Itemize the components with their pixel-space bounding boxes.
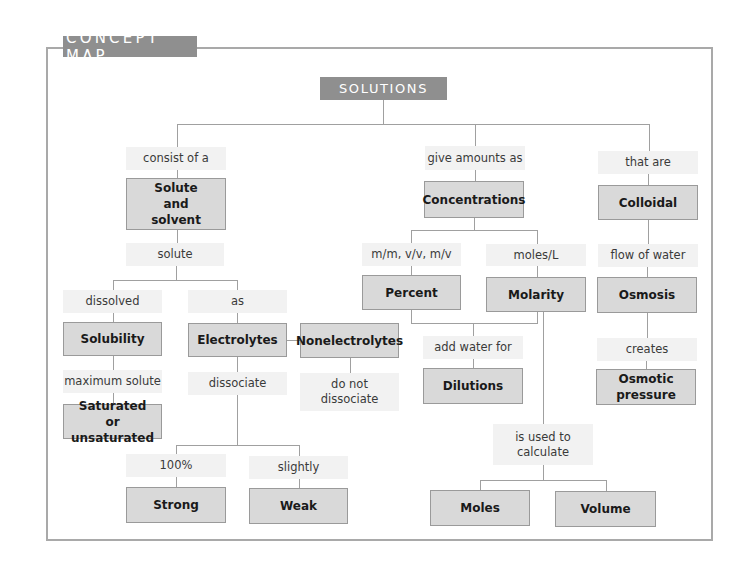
node-saturated-or-unsaturated: Saturated or unsaturated	[63, 404, 162, 439]
link-as: as	[188, 290, 287, 313]
link-is-used-to-calculate: is used to calculate	[493, 424, 593, 465]
connector	[480, 480, 607, 481]
link-consist-of-a: consist of a	[126, 147, 226, 170]
connector	[411, 230, 538, 231]
node-molarity: Molarity	[486, 277, 586, 312]
link-dissolved: dissolved	[63, 290, 162, 313]
node-osmosis: Osmosis	[597, 277, 697, 313]
connector	[606, 480, 607, 491]
connector	[537, 230, 538, 244]
connector	[176, 477, 177, 487]
node-colloidal: Colloidal	[598, 185, 698, 220]
concept-map-title: CONCEPT MAP	[63, 36, 197, 57]
connector	[473, 323, 474, 336]
link-add-water-for: add water for	[423, 336, 523, 359]
connector	[649, 124, 650, 151]
root-node-solutions: SOLUTIONS	[320, 77, 447, 100]
link-flow-of-water: flow of water	[598, 244, 698, 267]
connector	[113, 280, 114, 290]
link-do-not-dissociate: do not dissociate	[300, 373, 399, 411]
node-solute-and-solvent: Solute and solvent	[126, 178, 226, 230]
connector	[474, 218, 475, 230]
connector	[177, 124, 650, 125]
link-that-are: that are	[598, 151, 698, 174]
link-moles-per-liter: moles/L	[486, 244, 586, 266]
connector	[473, 359, 474, 368]
connector	[177, 230, 178, 243]
connector	[299, 479, 300, 488]
connector	[113, 280, 238, 281]
link-slightly: slightly	[249, 456, 348, 479]
node-dilutions: Dilutions	[423, 368, 523, 404]
node-electrolytes: Electrolytes	[188, 323, 287, 357]
node-moles: Moles	[430, 490, 530, 526]
connector	[237, 357, 238, 372]
connector	[176, 445, 300, 446]
node-osmotic-pressure: Osmotic pressure	[596, 369, 696, 405]
connector	[646, 361, 647, 369]
connector	[537, 312, 538, 323]
connector	[177, 124, 178, 147]
connector	[411, 266, 412, 275]
connector	[480, 480, 481, 490]
node-strong: Strong	[126, 487, 226, 523]
connector	[237, 313, 238, 323]
connector	[176, 266, 177, 280]
connector	[648, 220, 649, 244]
link-creates: creates	[597, 338, 697, 361]
connector	[411, 310, 412, 323]
link-maximum-solute: maximum solute	[63, 370, 162, 393]
node-volume: Volume	[555, 491, 656, 527]
connector	[350, 358, 351, 373]
link-solute: solute	[126, 243, 224, 266]
link-give-amounts-as: give amounts as	[425, 146, 525, 170]
node-percent: Percent	[362, 275, 461, 310]
connector	[537, 266, 538, 277]
connector	[237, 280, 238, 290]
connector	[113, 313, 114, 322]
connector	[176, 445, 177, 454]
connector	[299, 445, 300, 456]
connector	[237, 395, 238, 445]
connector	[177, 170, 178, 178]
node-weak: Weak	[249, 488, 348, 524]
connector	[647, 267, 648, 277]
link-percent-types: m/m, v/v, m/v	[362, 243, 461, 266]
connector	[383, 100, 384, 124]
link-100-percent: 100%	[126, 454, 226, 477]
connector	[648, 174, 649, 185]
node-solubility: Solubility	[63, 322, 162, 356]
connector	[543, 465, 544, 480]
connector	[543, 312, 544, 424]
node-nonelectrolytes: Nonelectrolytes	[300, 323, 399, 358]
connector	[647, 313, 648, 338]
connector	[113, 356, 114, 370]
connector	[411, 323, 538, 324]
node-concentrations: Concentrations	[424, 181, 524, 218]
connector	[411, 230, 412, 243]
connector	[475, 124, 476, 146]
connector	[475, 170, 476, 181]
link-dissociate: dissociate	[188, 372, 287, 395]
